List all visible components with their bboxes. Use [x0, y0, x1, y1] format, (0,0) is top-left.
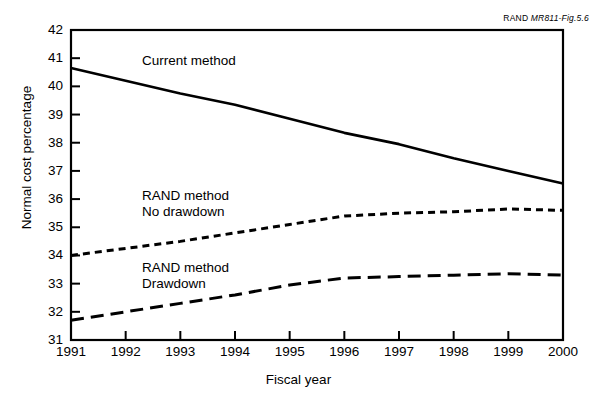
- y-tick-34: 34: [29, 248, 63, 262]
- y-tick-33: 33: [29, 277, 63, 291]
- annotation-3: RAND method: [142, 259, 229, 276]
- axis-ticks: [71, 58, 508, 340]
- x-tick-1996: 1996: [314, 345, 374, 359]
- figure-container: RAND MR811-Fig.5.6 Normal cost percentag…: [0, 0, 597, 401]
- plot-area: [0, 0, 597, 401]
- y-tick-42: 42: [29, 23, 63, 37]
- source-note-id: MR811-Fig.5.6: [531, 13, 589, 23]
- annotation-1: RAND method: [142, 187, 229, 204]
- x-tick-1993: 1993: [150, 345, 210, 359]
- y-tick-37: 37: [29, 164, 63, 178]
- series-line-current-method: [71, 68, 563, 184]
- x-tick-1997: 1997: [369, 345, 429, 359]
- y-tick-36: 36: [29, 192, 63, 206]
- x-tick-1994: 1994: [205, 345, 265, 359]
- annotation-0: Current method: [142, 52, 236, 69]
- y-tick-35: 35: [29, 220, 63, 234]
- x-tick-1992: 1992: [96, 345, 156, 359]
- y-tick-40: 40: [29, 79, 63, 93]
- x-tick-1991: 1991: [41, 345, 101, 359]
- axis-frame: [71, 30, 563, 340]
- x-tick-1999: 1999: [478, 345, 538, 359]
- annotation-2: No drawdown: [142, 203, 225, 220]
- x-tick-1995: 1995: [260, 345, 320, 359]
- source-note-prefix: RAND: [503, 13, 530, 23]
- y-tick-39: 39: [29, 108, 63, 122]
- source-note: RAND MR811-Fig.5.6: [503, 13, 589, 23]
- annotation-4: Drawdown: [142, 275, 206, 292]
- y-tick-38: 38: [29, 136, 63, 150]
- x-axis-label: Fiscal year: [0, 372, 597, 387]
- y-tick-41: 41: [29, 51, 63, 65]
- y-tick-32: 32: [29, 305, 63, 319]
- x-tick-2000: 2000: [533, 345, 593, 359]
- x-tick-1998: 1998: [424, 345, 484, 359]
